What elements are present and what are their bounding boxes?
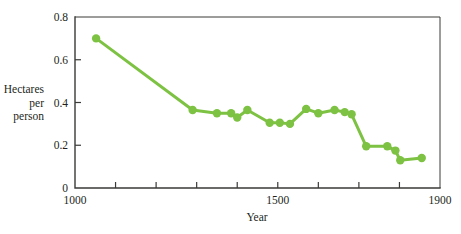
chart-figure: 100015001900 00.20.40.60.8 Hectaresperpe…: [0, 0, 461, 234]
data-point-marker: [276, 119, 284, 127]
y-tick-label: 0.2: [54, 139, 69, 151]
data-point-marker: [347, 110, 355, 118]
data-point-marker: [213, 109, 221, 117]
y-axis-title-line: Hectares: [4, 83, 45, 95]
x-tick-label: 1000: [64, 194, 87, 206]
data-point-marker: [383, 142, 391, 150]
y-tick-label: 0: [62, 182, 68, 194]
data-point-marker: [362, 142, 370, 150]
y-axis-title-line: person: [13, 110, 44, 123]
data-point-marker: [286, 120, 294, 128]
data-point-marker: [243, 106, 251, 114]
data-point-marker: [265, 119, 273, 127]
data-point-marker: [396, 156, 404, 164]
data-point-marker: [188, 106, 196, 114]
x-tick-label: 1500: [266, 194, 289, 206]
data-point-marker: [92, 34, 100, 42]
data-point-marker: [302, 105, 310, 113]
data-point-marker: [233, 113, 241, 121]
data-point-marker: [391, 146, 399, 154]
x-axis-title: Year: [246, 211, 267, 223]
y-tick-label: 0.6: [54, 54, 69, 66]
y-axis-title-line: per: [29, 97, 44, 110]
data-point-marker: [314, 109, 322, 117]
y-tick-label: 0.4: [54, 97, 69, 109]
x-tick-label: 1900: [429, 194, 452, 206]
data-point-marker: [418, 154, 426, 162]
hectares-per-person-line-chart: 100015001900 00.20.40.60.8 Hectaresperpe…: [0, 0, 461, 234]
data-point-marker: [330, 106, 338, 114]
y-tick-label: 0.8: [54, 11, 69, 23]
